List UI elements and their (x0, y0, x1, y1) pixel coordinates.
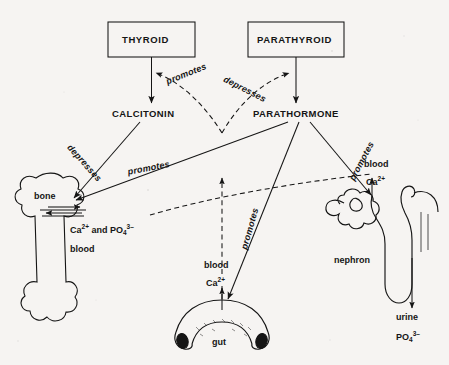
urine-phosphate-sub: 4 (409, 336, 413, 343)
urine-label: urine (396, 313, 418, 322)
arrow-promotes-gut (228, 122, 299, 299)
bone-phosphate-sub: 4 (123, 229, 127, 236)
parathormone-label: PARATHORMONE (253, 109, 339, 119)
bone-calcium-symbol: Ca (70, 225, 82, 235)
gut-calcium-formula: Ca2+ (206, 277, 225, 288)
bone-blood-label: blood (70, 245, 95, 254)
gut-blood-label: blood (204, 261, 229, 270)
gut-right-lumen (254, 332, 269, 350)
scan-speckle (17, 35, 418, 342)
nephron-collecting-duct (421, 212, 428, 252)
diagram-canvas: THYROID PARATHYROID CALCITONIN PARATHORM… (0, 0, 449, 365)
nephron-calcium-symbol: Ca (366, 177, 378, 187)
gut-left-lumen (175, 332, 190, 350)
nephron-calcium-formula: Ca2+ (366, 176, 385, 187)
urine-phosphate-symbol: PO (396, 332, 409, 342)
urine-phosphate-formula: PO43– (396, 331, 420, 344)
gut-calcium-symbol: Ca (206, 278, 218, 288)
bone-phosphate-charge: 3– (127, 223, 134, 230)
bone-conjunction: and PO (89, 225, 123, 235)
parathyroid-label: PARATHYROID (257, 35, 332, 45)
gut-label: gut (212, 338, 226, 347)
gut-calcium-charge: 2+ (218, 276, 225, 283)
thyroid-label: THYROID (122, 35, 169, 45)
arrow-promotes-bone (76, 122, 288, 200)
bone-calcium-charge: 2+ (82, 223, 89, 230)
bone-exchange-formula: Ca2+ and PO43– (70, 224, 134, 237)
nephron-label: nephron (334, 256, 370, 265)
curve-bone-to-nephron (150, 174, 372, 215)
nephron-calcium-charge: 2+ (378, 175, 385, 182)
urine-phosphate-charge: 3– (413, 330, 420, 337)
nephron-blood-label: blood (364, 160, 389, 169)
bone-label: bone (34, 192, 56, 201)
calcitonin-label: CALCITONIN (112, 109, 174, 119)
nephron-glomerulus (326, 189, 379, 229)
